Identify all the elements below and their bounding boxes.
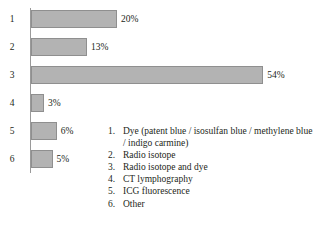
- bar-row: 1 20%: [0, 10, 322, 28]
- y-axis-line: [30, 8, 31, 173]
- legend-item: 3. Radio isotope and dye: [108, 162, 314, 174]
- legend-item: 5. ICG fluorescence: [108, 186, 314, 198]
- legend-item: 6. Other: [108, 199, 314, 211]
- legend-item-label: Other: [123, 199, 314, 211]
- legend-item-number: 1.: [108, 126, 120, 138]
- bar-value-label: 6%: [61, 122, 74, 140]
- bar-value-label: 5%: [57, 150, 70, 168]
- category-label: 1: [0, 10, 24, 28]
- bar-chart-figure: 1 20% 2 13% 3 54% 4 3% 5 6% 6 5%: [0, 0, 322, 228]
- bar-value-label: 13%: [91, 38, 108, 56]
- bar-5: [31, 122, 57, 140]
- legend-item-number: 5.: [108, 186, 120, 198]
- legend-item-label: Radio isotope and dye: [123, 162, 314, 174]
- bar-value-label: 20%: [121, 10, 138, 28]
- bar-3: [31, 66, 263, 84]
- legend-item-number: 3.: [108, 162, 120, 174]
- legend-item-label: Dye (patent blue / isosulfan blue / meth…: [123, 126, 314, 149]
- bar-row: 4 3%: [0, 94, 322, 112]
- legend-item-number: 6.: [108, 199, 120, 211]
- bar-6: [31, 150, 53, 168]
- legend-item: 4. CT lymphography: [108, 174, 314, 186]
- bar-2: [31, 38, 87, 56]
- bar-value-label: 3%: [48, 94, 61, 112]
- legend-item-label: ICG fluorescence: [123, 186, 314, 198]
- category-label: 5: [0, 122, 24, 140]
- bar-row: 2 13%: [0, 38, 322, 56]
- legend-item: 1. Dye (patent blue / isosulfan blue / m…: [108, 126, 314, 149]
- category-label: 4: [0, 94, 24, 112]
- bar-row: 3 54%: [0, 66, 322, 84]
- category-label: 6: [0, 150, 24, 168]
- bar-1: [31, 10, 117, 28]
- legend-item-label: Radio isotope: [123, 150, 314, 162]
- bar-value-label: 54%: [267, 66, 284, 84]
- legend-item: 2. Radio isotope: [108, 150, 314, 162]
- legend-item-number: 4.: [108, 174, 120, 186]
- legend-item-number: 2.: [108, 150, 120, 162]
- legend: 1. Dye (patent blue / isosulfan blue / m…: [108, 126, 314, 211]
- legend-item-label: CT lymphography: [123, 174, 314, 186]
- category-label: 2: [0, 38, 24, 56]
- bar-4: [31, 94, 44, 112]
- category-label: 3: [0, 66, 24, 84]
